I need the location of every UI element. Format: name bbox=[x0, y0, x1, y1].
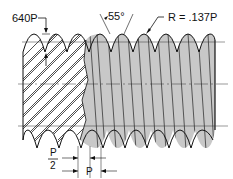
shaded-thread-section bbox=[80, 30, 220, 155]
angle-label: 55° bbox=[108, 10, 125, 22]
thread-diagram: 640P 55° R = .137P P 2 P bbox=[0, 0, 233, 179]
pitch-label: P bbox=[86, 166, 93, 177]
truncation-label: 640P bbox=[12, 12, 38, 24]
radius-callout: R = .137P bbox=[146, 11, 217, 34]
half-pitch-numerator: P bbox=[50, 147, 57, 158]
pitch-dimensions: P 2 P bbox=[48, 146, 117, 178]
truncation-callout: 640P bbox=[12, 12, 50, 66]
half-pitch-denominator: 2 bbox=[50, 160, 56, 171]
angle-callout: 55° bbox=[100, 10, 133, 34]
radius-label: R = .137P bbox=[168, 11, 217, 23]
